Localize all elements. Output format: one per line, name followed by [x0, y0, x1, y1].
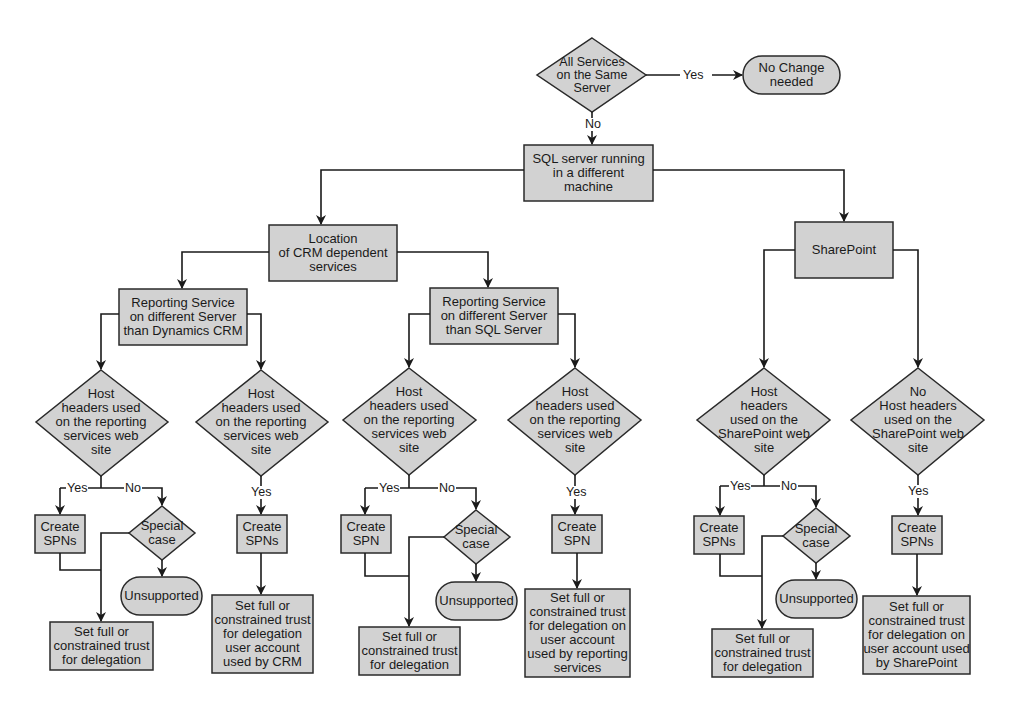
edge-label-yes-1: Yes: [66, 482, 88, 495]
hh4-text: Host headers used on the reporting servi…: [520, 383, 630, 457]
no-change-text: No Change needed: [743, 56, 840, 94]
edge-label-no-5: No: [780, 480, 798, 493]
hh5-text: Host headers used on the SharePoint web …: [709, 383, 819, 457]
edge-label-yes-3: Yes: [378, 482, 400, 495]
trust1-text: Set full or constrained trust for delega…: [50, 622, 153, 670]
edge-label-yes-5: Yes: [729, 480, 751, 493]
special-case-5-text: Special case: [786, 521, 846, 551]
hh6-text: No Host headers used on the SharePoint w…: [863, 383, 973, 457]
spn1-text: Create SPNs: [35, 515, 85, 553]
unsupported-3-text: Unsupported: [436, 582, 517, 620]
trust6-text: Set full or constrained trust for delega…: [863, 596, 970, 674]
trust5-text: Set full or constrained trust for delega…: [712, 629, 813, 677]
sql-diff-machine-text: SQL server running in a different machin…: [524, 145, 653, 201]
edge-label-yes-top: Yes: [682, 69, 704, 82]
hh3-text: Host headers used on the reporting servi…: [354, 383, 464, 457]
edge-label-yes-2: Yes: [250, 486, 272, 499]
trust3-text: Set full or constrained trust for delega…: [359, 627, 460, 675]
unsupported-5-text: Unsupported: [776, 580, 857, 618]
special-case-1-text: Special case: [132, 518, 192, 548]
edge-label-yes-4: Yes: [565, 486, 587, 499]
trust4-text: Set full or constrained trust for delega…: [525, 589, 630, 677]
spn6-text: Create SPNs: [892, 516, 942, 554]
hh2-text: Host headers used on the reporting servi…: [206, 385, 316, 459]
spn4-text: Create SPN: [552, 515, 602, 553]
decision-all-same-server-text: All Services on the Same Server: [545, 52, 639, 98]
hh1-text: Host headers used on the reporting servi…: [46, 385, 156, 459]
edge-label-no-1: No: [124, 482, 142, 495]
spn5-text: Create SPNs: [694, 516, 744, 554]
crm-location-text: Location of CRM dependent services: [269, 225, 397, 281]
edge-label-yes-6: Yes: [907, 485, 929, 498]
special-case-3-text: Special case: [446, 522, 506, 552]
unsupported-1-text: Unsupported: [121, 577, 202, 615]
edge-label-no-3: No: [438, 482, 456, 495]
rs-diff-crm-text: Reporting Service on different Server th…: [119, 289, 247, 345]
sharepoint-text: SharePoint: [795, 222, 893, 278]
trust2-text: Set full or constrained trust for delega…: [212, 595, 313, 673]
spn3-text: Create SPN: [341, 515, 391, 553]
edge-label-no-top: No: [584, 118, 602, 131]
spn2-text: Create SPNs: [237, 515, 287, 553]
rs-diff-sql-text: Reporting Service on different Server th…: [430, 288, 558, 344]
